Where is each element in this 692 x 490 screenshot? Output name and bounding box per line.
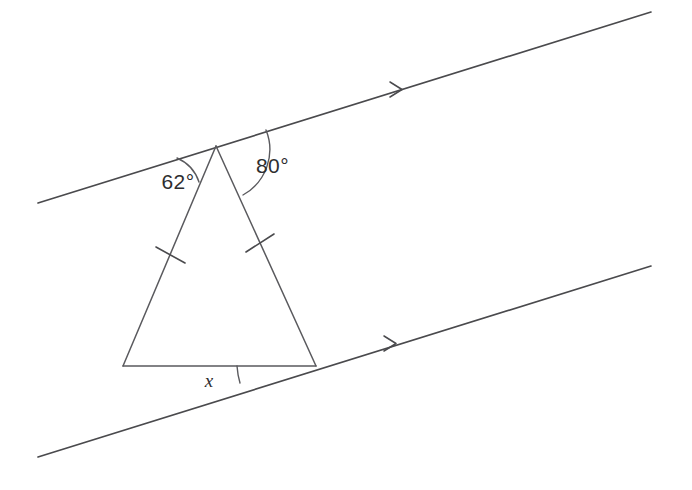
angle-label-62: 62° <box>162 170 195 193</box>
angle-label-80: 80° <box>256 154 289 177</box>
angle-arc-x <box>237 366 240 383</box>
triangle-right-leg <box>216 146 316 366</box>
congruence-tick-right-leg <box>246 234 274 252</box>
lower-parallel-line <box>38 266 651 457</box>
geometry-figure: 62° 80° x <box>0 0 692 490</box>
upper-parallel-line <box>38 12 651 203</box>
geometry-canvas: 62° 80° x <box>0 0 692 490</box>
congruence-tick-left-leg <box>156 247 185 263</box>
angle-label-x: x <box>204 370 214 391</box>
